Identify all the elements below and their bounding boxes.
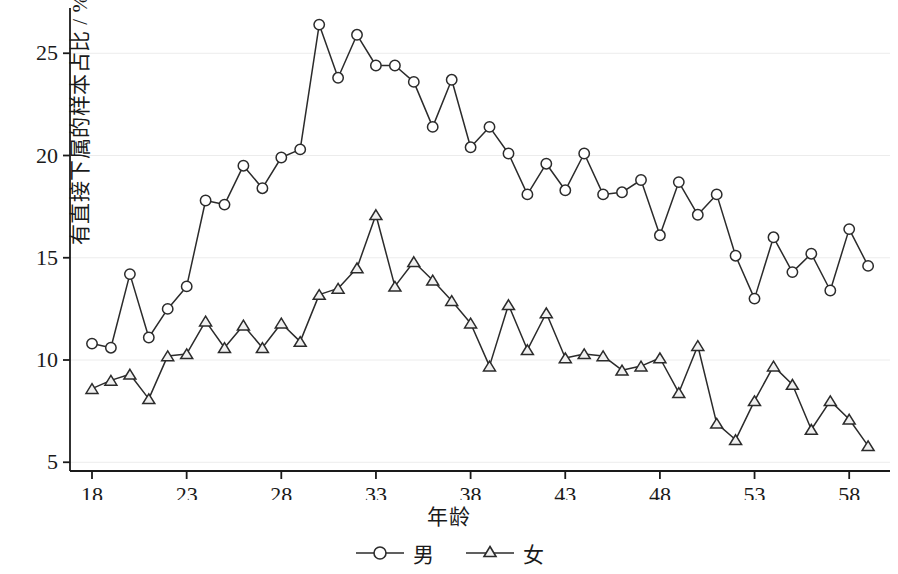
data-point [143,394,155,404]
data-point [275,318,287,328]
legend-item-male[interactable]: 男 [354,538,434,568]
data-point [654,353,666,363]
series-line [92,215,868,446]
data-point [256,343,268,353]
data-point [787,267,797,277]
x-axis-label: 年龄 [0,500,898,530]
data-point [484,361,496,371]
data-point [219,199,229,209]
data-point [295,144,305,154]
data-point [711,418,723,428]
data-point [465,318,477,328]
plot-area: 510152025182328333843485358 [0,0,898,500]
data-point [768,232,778,242]
data-point [806,249,816,259]
chart-legend: 男 女 [0,538,898,568]
x-axis-ticks: 182328333843485358 [81,471,860,500]
legend-label-female: 女 [523,538,544,568]
data-point [503,300,515,310]
data-point [238,161,248,171]
data-point [730,251,740,261]
data-point [106,343,116,353]
data-point [200,316,212,326]
data-point [370,210,382,220]
data-point [182,281,192,291]
x-tick-label: 33 [365,482,387,500]
x-tick-label: 18 [81,482,103,500]
data-point [371,60,381,70]
x-tick-label: 28 [270,482,292,500]
data-point [200,195,210,205]
data-point [219,343,231,353]
data-point [522,189,532,199]
x-tick-label: 43 [554,482,576,500]
y-axis-label: 有直接下属的样本占比 / % [63,0,93,270]
data-point [144,332,154,342]
legend-label-male: 男 [413,538,434,568]
data-point [749,293,759,303]
x-tick-label: 23 [176,482,198,500]
data-point [408,257,420,267]
data-point [824,396,836,406]
data-point [693,210,703,220]
data-point [447,75,457,85]
data-point [768,361,780,371]
y-tick-label: 25 [36,40,58,65]
data-point [540,308,552,318]
data-point [333,73,343,83]
data-point [579,148,589,158]
data-point [863,261,873,271]
data-point [862,441,874,451]
series-female [86,210,874,451]
data-point [125,269,135,279]
data-point [352,30,362,40]
data-point [635,361,647,371]
data-point [389,281,401,291]
legend-item-female[interactable]: 女 [464,538,544,568]
y-axis-label-container: 有直接下属的样本占比 / % [0,105,40,405]
x-tick-label: 53 [744,482,766,500]
data-point [673,388,685,398]
data-point [409,77,419,87]
data-point [636,175,646,185]
data-point [844,224,854,234]
data-point [105,375,117,385]
series-male [87,19,874,353]
data-point [390,60,400,70]
triangle-marker-icon [464,543,516,563]
data-point [825,285,835,295]
data-point [692,341,704,351]
data-point [655,230,665,240]
data-point [560,185,570,195]
data-point [617,187,627,197]
x-tick-label: 38 [460,482,482,500]
data-point [86,384,98,394]
data-point [87,338,97,348]
data-point [124,369,136,379]
data-point [805,425,817,435]
x-tick-label: 48 [649,482,671,500]
data-point [674,177,684,187]
data-point [351,263,363,273]
data-point [163,304,173,314]
data-point [749,396,761,406]
axes [70,8,890,471]
circle-marker-icon [354,543,406,563]
chart-figure: 有直接下属的样本占比 / % 5101520251823283338434853… [0,0,898,574]
data-point [313,290,325,300]
data-point [598,189,608,199]
data-point [237,320,249,330]
data-point [484,122,494,132]
data-point [541,159,551,169]
data-point [503,148,513,158]
y-tick-label: 5 [47,449,58,474]
data-point [276,152,286,162]
data-point [712,189,722,199]
data-point [257,183,267,193]
data-point [314,19,324,29]
data-point [521,345,533,355]
data-point [428,122,438,132]
x-tick-label: 58 [838,482,860,500]
data-point [465,142,475,152]
